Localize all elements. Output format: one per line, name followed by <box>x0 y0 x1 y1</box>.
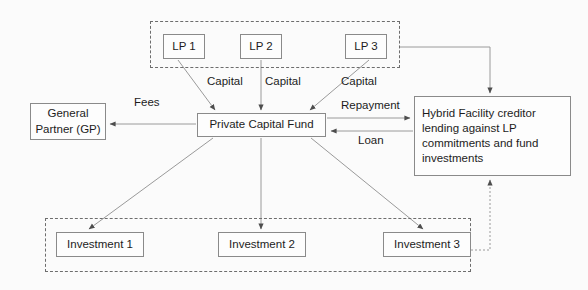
node-lp-3-label: LP 3 <box>354 39 377 54</box>
node-lp-1-label: LP 1 <box>172 39 195 54</box>
node-general-partner-label: General Partner (GP) <box>35 106 101 136</box>
edge-fund-to-investment-1 <box>89 138 213 229</box>
node-investment-3[interactable]: Investment 3 <box>383 232 471 257</box>
node-general-partner[interactable]: General Partner (GP) <box>30 103 106 140</box>
node-investment-2[interactable]: Investment 2 <box>218 232 306 257</box>
edge-label-capital-2: Capital <box>265 75 301 87</box>
edge-investments-group-to-creditor <box>471 180 490 250</box>
node-hybrid-facility-creditor[interactable]: Hybrid Facility creditor lending against… <box>414 96 571 176</box>
edge-fund-to-investment-3 <box>311 138 423 229</box>
edge-lp-group-to-creditor <box>400 47 490 93</box>
node-private-capital-fund[interactable]: Private Capital Fund <box>197 113 326 137</box>
node-lp-2[interactable]: LP 2 <box>240 34 282 59</box>
node-investment-1[interactable]: Investment 1 <box>56 232 144 257</box>
node-investment-2-label: Investment 2 <box>229 237 295 252</box>
node-lp-3[interactable]: LP 3 <box>345 34 387 59</box>
node-investment-1-label: Investment 1 <box>67 237 133 252</box>
node-investment-3-label: Investment 3 <box>394 237 460 252</box>
diagram-canvas: LP 1 LP 2 LP 3 General Partner (GP) Priv… <box>0 0 588 290</box>
edge-label-repayment: Repayment <box>341 99 400 111</box>
edge-label-capital-1: Capital <box>207 75 243 87</box>
edge-label-loan: Loan <box>358 134 384 146</box>
node-hybrid-facility-creditor-label: Hybrid Facility creditor lending against… <box>422 106 563 167</box>
edge-label-fees: Fees <box>134 96 160 108</box>
node-lp-1[interactable]: LP 1 <box>163 34 205 59</box>
node-private-capital-fund-label: Private Capital Fund <box>209 117 313 132</box>
node-lp-2-label: LP 2 <box>249 39 272 54</box>
edge-label-capital-3: Capital <box>341 75 377 87</box>
